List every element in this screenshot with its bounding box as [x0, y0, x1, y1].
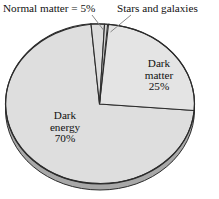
callout-label-normal-matter: Normal matter = 5% [3, 2, 95, 14]
slice-label-dark-energy-line1: Dark [34, 110, 96, 122]
slice-label-dark-energy-value: 70% [34, 133, 96, 145]
slice-label-dark-matter-line1: Dark [128, 58, 190, 70]
pie-chart-figure: Normal matter = 5% Stars and galaxies Da… [0, 0, 219, 199]
slice-label-dark-matter-value: 25% [128, 81, 190, 93]
slice-label-dark-energy: Dark energy 70% [34, 110, 96, 145]
callout-label-stars-and-galaxies: Stars and galaxies [117, 2, 198, 14]
pie-chart-graphic [0, 0, 219, 199]
slice-label-dark-matter: Dark matter 25% [128, 58, 190, 93]
